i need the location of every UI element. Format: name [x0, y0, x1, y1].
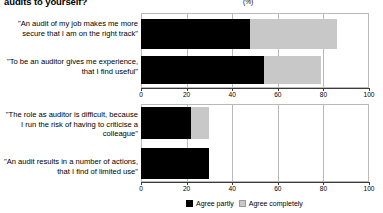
- axis-ticklabel-bottom-40: 40: [229, 185, 236, 192]
- axis-ticklabel-top-100: 100: [363, 91, 374, 98]
- axis-ticklabel-bottom-80: 80: [320, 185, 327, 192]
- bar-segment-agree-partly-1: [141, 19, 250, 49]
- axis-ticklabel-bottom-60: 60: [274, 185, 281, 192]
- bar-segment-agree-partly-2: [141, 56, 264, 84]
- bar-segment-agree-completely-2: [264, 56, 321, 84]
- chart-title: audits to yourself?: [4, 0, 194, 7]
- category-label-4: "An audit results in a number of actions…: [3, 157, 141, 176]
- axis-ticklabel-top-20: 20: [183, 91, 190, 98]
- legend-label-agree-partly: Agree partly: [196, 200, 234, 207]
- bar-segment-agree-completely-3: [191, 107, 209, 139]
- axis-ticklabel-bottom-0: 0: [139, 185, 143, 192]
- legend-item-agree-partly: Agree partly: [186, 200, 234, 207]
- axis-line-top: [141, 88, 369, 89]
- chart-panel-bottom: [141, 104, 369, 182]
- legend-swatch-agree-completely-icon: [239, 200, 246, 207]
- gridline-bottom-60: [278, 104, 279, 182]
- axis-ticklabel-top-40: 40: [229, 91, 236, 98]
- axis-line-bottom: [141, 182, 369, 183]
- bar-segment-agree-partly-4: [141, 148, 209, 179]
- gridline-bottom-80: [323, 104, 324, 182]
- category-label-3: "The role as auditor is difficult, becau…: [3, 110, 141, 139]
- chart-figure: audits to yourself? (%) 0 20 40 60 80: [0, 0, 383, 213]
- legend-label-agree-completely: Agree completely: [249, 200, 303, 207]
- axis-ticklabel-bottom-100: 100: [363, 185, 374, 192]
- chart-panel-top: [141, 13, 369, 88]
- gridline-bottom-40: [232, 104, 233, 182]
- axis-ticklabel-top-80: 80: [320, 91, 327, 98]
- category-label-2: "To be an auditor gives me experience, t…: [3, 57, 141, 76]
- legend-item-agree-completely: Agree completely: [239, 200, 303, 207]
- axis-ticklabel-top-0: 0: [139, 91, 143, 98]
- axis-ticklabel-top-60: 60: [274, 91, 281, 98]
- category-label-1: "An audit of my job makes me more secure…: [3, 19, 141, 38]
- axis-unit-label: (%): [243, 0, 253, 5]
- bar-segment-agree-partly-3: [141, 107, 191, 139]
- axis-ticklabel-bottom-20: 20: [183, 185, 190, 192]
- axis-bottom: 0 20 40 60 80 100: [141, 182, 369, 194]
- axis-top: 0 20 40 60 80 100: [141, 88, 369, 100]
- chart-legend: Agree partly Agree completely: [186, 200, 303, 207]
- legend-swatch-agree-partly-icon: [186, 200, 193, 207]
- bar-segment-agree-completely-1: [250, 19, 337, 49]
